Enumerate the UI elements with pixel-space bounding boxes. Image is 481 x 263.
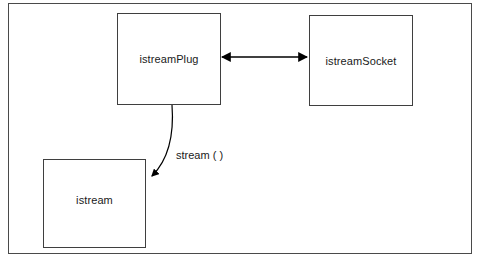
node-istream[interactable]: istream — [43, 159, 146, 248]
node-istream-plug-label: istreamPlug — [139, 53, 198, 65]
node-istream-plug[interactable]: istreamPlug — [117, 13, 221, 105]
node-istream-socket[interactable]: istreamSocket — [309, 15, 413, 106]
node-istream-label: istream — [76, 194, 113, 206]
diagram-canvas: istreamPlug istreamSocket istream stream… — [0, 0, 481, 263]
edge-label-stream: stream ( ) — [176, 149, 223, 161]
node-istream-socket-label: istreamSocket — [326, 55, 397, 67]
